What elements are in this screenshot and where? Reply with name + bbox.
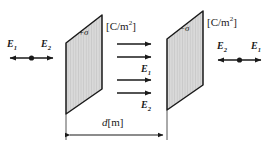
left-plate-charge-label: +σ: [78, 28, 89, 37]
left-plate-unit-label: [C/m2]: [106, 20, 136, 32]
left-region-E2-label: E2: [41, 39, 51, 52]
right-region-E2-label: E2: [217, 41, 227, 54]
middle-field-E2-label: E2: [141, 100, 151, 113]
middle-field-E1-label: E1: [141, 64, 151, 77]
capacitor-field-diagram: E1 E2 E2 E1 +σ −σ [C/m2] [C/m2] E1 E2 d[…: [0, 0, 270, 147]
right-region-E1-label: E1: [251, 41, 261, 54]
right-point-marker: [237, 57, 242, 62]
right-plate-unit-label: [C/m2]: [207, 16, 237, 28]
right-plate-charge-label: −σ: [179, 24, 190, 33]
left-region-E1-label: E1: [7, 39, 17, 52]
dimension-label: d[m]: [102, 117, 123, 128]
left-point-marker: [29, 55, 34, 60]
